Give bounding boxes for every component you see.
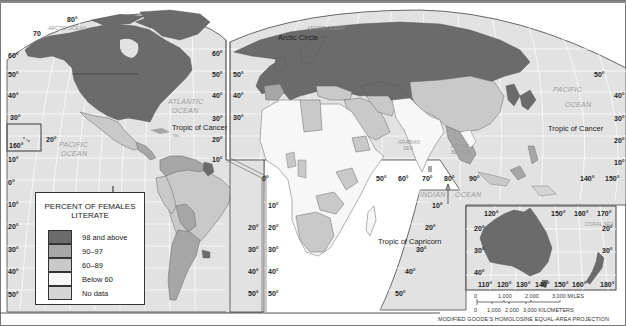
legend-item-below-60: Below 60 [48,272,127,286]
svg-text:OCEAN: OCEAN [172,107,199,114]
svg-text:30°: 30° [474,247,485,254]
svg-text:ARCTIC OCEAN: ARCTIC OCEAN [47,25,86,31]
svg-text:160°: 160° [9,142,24,149]
svg-text:70: 70 [33,30,41,37]
svg-text:20°: 20° [474,225,485,232]
svg-text:150°: 150° [551,210,566,217]
legend-swatch [48,272,72,286]
legend-swatch [48,244,72,258]
svg-text:140°: 140° [535,281,550,288]
svg-text:40°: 40° [8,268,19,275]
svg-text:Tropic of Cancer: Tropic of Cancer [548,124,604,133]
legend-title: PERCENT OF FEMALES LITERATE [36,202,144,220]
svg-text:10°: 10° [8,156,19,163]
svg-text:30°: 30° [212,115,223,122]
svg-text:50°: 50° [376,175,387,182]
svg-text:0°: 0° [262,175,269,182]
svg-text:Tropic of Cancer: Tropic of Cancer [172,123,228,132]
svg-text:OCEAN: OCEAN [61,150,88,157]
svg-text:120°: 120° [484,210,499,217]
svg-text:BENGAL: BENGAL [451,149,472,155]
svg-text:50°: 50° [594,71,605,78]
svg-text:170°: 170° [597,210,612,217]
svg-text:PACIFIC: PACIFIC [553,86,583,93]
svg-text:SEA: SEA [403,145,414,151]
svg-text:Tropic of Capricorn: Tropic of Capricorn [378,237,442,246]
svg-text:ATLANTIC: ATLANTIC [167,98,204,105]
svg-text:60°: 60° [8,52,19,59]
svg-text:40°: 40° [268,268,279,275]
svg-text:40°: 40° [614,92,625,99]
svg-text:10°: 10° [614,159,625,166]
svg-text:50°: 50° [268,290,279,297]
svg-text:150°: 150° [554,281,569,288]
svg-text:30°: 30° [416,246,427,253]
svg-text:140°: 140° [580,175,595,182]
svg-text:20°: 20° [602,225,613,232]
svg-text:60°: 60° [212,50,223,57]
svg-text:OCEAN: OCEAN [565,101,592,108]
svg-text:10°: 10° [432,202,443,209]
svg-text:160°: 160° [574,210,589,217]
svg-text:OCEAN: OCEAN [455,191,482,198]
svg-text:20°: 20° [614,137,625,144]
svg-text:30°: 30° [10,114,21,121]
legend-item-no-data: No data [48,286,127,300]
svg-text:10°: 10° [268,202,279,209]
svg-text:INDIAN: INDIAN [420,191,446,198]
svg-text:50°: 50° [212,71,223,78]
svg-text:50°: 50° [8,291,19,298]
svg-text:110°: 110° [478,281,492,288]
svg-text:20°: 20° [248,224,259,231]
svg-text:40°: 40° [474,269,485,276]
svg-text:40°: 40° [405,268,416,275]
svg-text:20°: 20° [268,224,279,231]
svg-text:30°: 30° [8,246,19,253]
svg-text:50°: 50° [233,71,244,78]
svg-text:30°: 30° [602,247,613,254]
svg-text:40°: 40° [212,92,223,99]
legend-swatch [48,230,72,244]
svg-text:30°: 30° [233,114,244,121]
svg-text:40°: 40° [8,92,19,99]
svg-text:70°: 70° [422,175,433,182]
svg-text:Arctic Circle: Arctic Circle [278,33,318,42]
australia-inset [466,206,616,290]
legend: PERCENT OF FEMALES LITERATE 98 and above… [35,192,145,305]
svg-text:20°: 20° [212,136,223,143]
svg-text:PACIFIC: PACIFIC [59,141,89,148]
svg-text:0°: 0° [8,179,15,186]
svg-text:20°: 20° [425,224,436,231]
svg-text:10°: 10° [212,156,223,163]
svg-text:20°: 20° [8,223,19,230]
svg-text:80°: 80° [67,16,78,23]
svg-text:160°: 160° [572,281,587,288]
svg-text:30°: 30° [268,246,279,253]
svg-text:30°: 30° [614,115,625,122]
svg-text:90°: 90° [469,175,480,182]
legend-swatch [48,286,72,300]
svg-text:20°: 20° [46,136,57,143]
svg-text:40°: 40° [233,92,244,99]
svg-text:30°: 30° [248,246,259,253]
svg-text:50°: 50° [8,71,19,78]
svg-text:ARCTIC OCEAN: ARCTIC OCEAN [306,25,345,31]
legend-item-98-above: 98 and above [48,230,127,244]
svg-text:150°: 150° [605,175,620,182]
legend-swatch [48,258,72,272]
svg-text:80°: 80° [444,175,455,182]
svg-text:180°: 180° [600,281,615,288]
svg-text:120°: 120° [497,281,512,288]
legend-item-90-97: 90–97 [48,244,127,258]
svg-text:50°: 50° [248,290,259,297]
svg-text:130°: 130° [516,281,531,288]
svg-text:60°: 60° [398,175,409,182]
projection-caption: MODIFIED GOODE'S HOMOLOSINE EQUAL-AREA P… [438,316,609,322]
legend-items: 98 and above 90–97 60–89 Below 60 No dat… [48,230,127,300]
svg-text:10°: 10° [8,201,19,208]
svg-text:40°: 40° [248,268,259,275]
legend-item-60-89: 60–89 [48,258,127,272]
svg-text:50°: 50° [395,290,406,297]
